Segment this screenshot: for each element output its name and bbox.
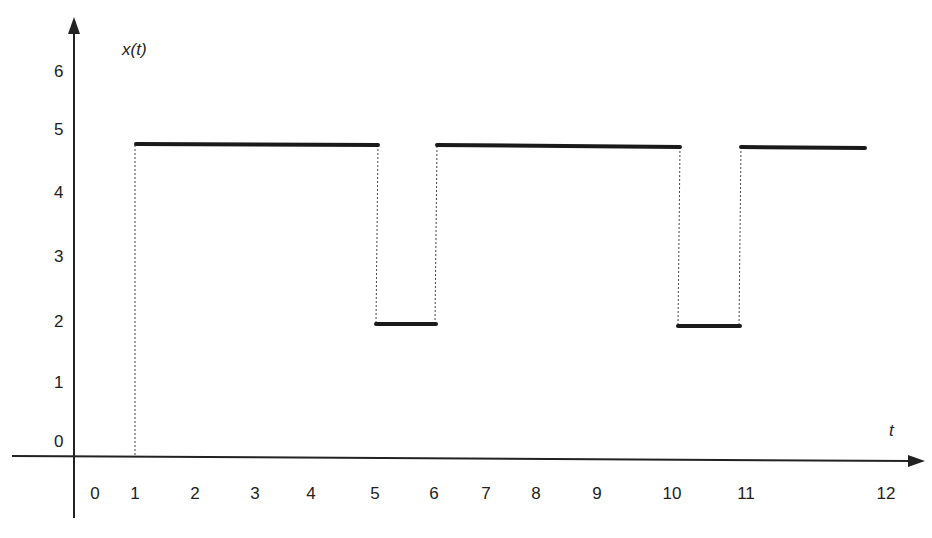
signal-segments	[136, 144, 865, 326]
y-axis-title: x(t)	[121, 40, 147, 59]
x-tick-label: 1	[130, 484, 139, 503]
x-tick-label: 6	[429, 484, 438, 503]
x-tick-label: 10	[663, 484, 682, 503]
x-axis-title: t	[889, 421, 895, 440]
x-tick-label: 11	[737, 484, 755, 503]
x-tick-label: 7	[481, 484, 490, 503]
x-tick-label: 8	[531, 484, 540, 503]
x-tick-label: 3	[250, 484, 259, 503]
y-tick-label: 5	[54, 120, 63, 139]
x-tick-label: 0	[90, 484, 99, 503]
y-tick-label: 3	[54, 247, 63, 266]
x-tick-label: 9	[592, 484, 601, 503]
x-tick-label: 12	[877, 484, 896, 503]
transition-lines	[135, 145, 741, 457]
x-tick-label: 5	[370, 484, 379, 503]
segment-high	[437, 145, 680, 147]
y-tick-label: 2	[54, 312, 63, 331]
x-axis-arrow-icon	[908, 455, 925, 467]
segment-high	[741, 147, 865, 148]
step-chart: x(t) t 6 5 4 3 2 1 0 0 1 2 3 4 5 6 7 8 9…	[0, 0, 932, 538]
y-tick-label: 1	[54, 373, 63, 392]
x-axis	[12, 456, 912, 461]
y-axis-arrow-icon	[68, 17, 80, 34]
x-tick-label: 4	[306, 484, 315, 503]
segment-high	[136, 144, 378, 145]
y-tick-label: 0	[54, 432, 63, 451]
y-tick-label: 6	[54, 62, 63, 81]
y-tick-label: 4	[54, 183, 63, 202]
x-tick-label: 2	[190, 484, 199, 503]
